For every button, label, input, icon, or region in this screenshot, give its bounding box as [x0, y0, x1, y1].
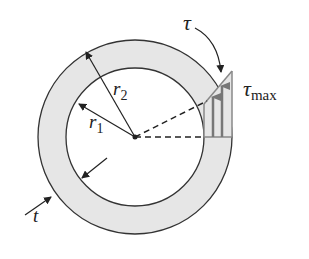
- label-tau: τ: [183, 10, 192, 35]
- label-t: t: [33, 205, 39, 226]
- hollow-shaft-diagram: r2 r1 t τ τmax: [0, 0, 309, 259]
- label-tau-max: τmax: [243, 76, 277, 103]
